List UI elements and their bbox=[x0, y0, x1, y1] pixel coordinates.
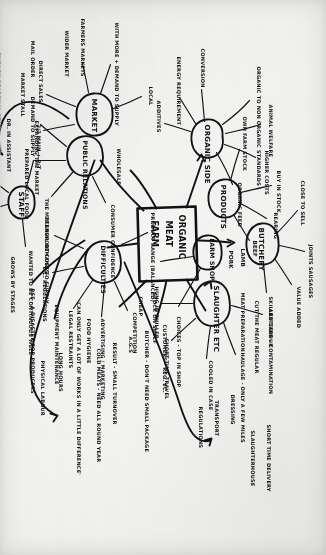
node-market-label: MARKET bbox=[89, 98, 97, 132]
leaf-label: BUY IN STOCK bbox=[275, 170, 281, 213]
leaf-label: ABATTOIR - CONTAMINATION bbox=[267, 308, 273, 394]
leaf-label: WIDER MARKET bbox=[63, 30, 69, 77]
node-products[interactable]: PRODUCTS bbox=[208, 179, 240, 229]
node-slaughter[interactable]: SLAUGHTER ETC bbox=[194, 281, 230, 352]
leaf-label: ORGANIC TO NON ORGANIC STANDARDS bbox=[255, 66, 261, 186]
leaves-farm-shop: CHOICES - TOP IN SHOP CUSTOMERS - REG. E… bbox=[95, 256, 200, 462]
leaf-label: LONG HOURS bbox=[57, 352, 63, 391]
leaf-label: ENERGY REQUIREMENT bbox=[175, 56, 181, 125]
node-butchery-label: BUTCHERY bbox=[256, 227, 264, 271]
leaf-label: CHOICES - TOP IN SHOP bbox=[175, 316, 181, 387]
leaf-label: CONVERSION bbox=[199, 48, 205, 87]
center-label-line1: ORGANIC bbox=[176, 214, 186, 259]
leaf-label: VALUE ADDED bbox=[295, 286, 301, 328]
leaf-label: FOOD HYGIENE bbox=[85, 318, 91, 363]
leaf-label: WANTED TO BE CONTINUOUS WELL bbox=[27, 250, 33, 355]
node-slaughter-label: SLAUGHTER ETC bbox=[211, 285, 219, 352]
leaf-label: DEMAND TO SUPPLY bbox=[29, 96, 35, 156]
leaf-label: OWN FARM STOCK bbox=[241, 116, 247, 172]
leaf-label: ADDITIVES bbox=[155, 100, 161, 132]
leaf-label: PORK bbox=[227, 250, 233, 269]
leaf-label: ADVERTISING / MARKETING bbox=[99, 318, 105, 399]
leaf-label: DR. IN ASSISTANT bbox=[5, 118, 11, 172]
node-products-label: PRODUCTS bbox=[218, 184, 226, 229]
node-organic-side-label: ORGANIC SIDE bbox=[202, 124, 210, 183]
leaf-label: MAIL ORDER bbox=[29, 40, 35, 77]
leaf-label: PRODUCT RANGE (BALANCED) bbox=[149, 212, 155, 302]
center-label-line2: MEAT bbox=[163, 220, 173, 246]
node-market[interactable]: MARKET bbox=[76, 93, 112, 135]
leaf-label: JOINTS SAUSAGES bbox=[307, 243, 313, 298]
leaf-label: MEAT PREPARATION bbox=[239, 292, 245, 351]
leaf-label: CUT THE MEAT REGULAR bbox=[253, 300, 259, 373]
node-staff-label: STAFF bbox=[16, 191, 25, 217]
mindmap-svg: ORGANIC MEAT FARM ORGANIC SIDE bbox=[0, 0, 326, 555]
leaf-label: HIGHER COSTS bbox=[263, 150, 269, 194]
leaf-label: THE MATERIAL DEMAND TO SUPPLY bbox=[43, 198, 49, 303]
center-node: ORGANIC MEAT FARM bbox=[137, 206, 197, 281]
leaf-label: COMPETITION bbox=[131, 312, 137, 353]
leaf-label: BUTCHER - DON'T NEED SMALL PACKAGE bbox=[143, 330, 149, 452]
leaf-label: DRESSING bbox=[229, 394, 235, 424]
node-staff[interactable]: STAFF bbox=[8, 186, 34, 218]
leaf-label: TRANSPORT bbox=[213, 400, 219, 436]
leaf-label: HAULAGE - ONLY A FEW MILES bbox=[239, 352, 245, 442]
leaf-label: CLOSE TO SELL bbox=[299, 180, 305, 226]
node-public-relations-label: PUBLIC RELATIONS bbox=[81, 140, 88, 209]
leaf-label: CONSUMER CONFIDENCE bbox=[109, 204, 115, 278]
node-farm-shop-label: FARM SHOP bbox=[208, 238, 215, 281]
leaf-label: FARMERS MARKETS bbox=[79, 18, 85, 76]
leaf-label: LEGAL RESTRAINTS bbox=[67, 310, 73, 368]
leaf-label: LOCAL bbox=[147, 86, 153, 106]
rotated-drawing-canvas: ORGANIC MEAT FARM ORGANIC SIDE bbox=[0, 0, 326, 555]
leaf-label: RESULT - SMALL TURNOVER bbox=[111, 342, 117, 424]
leaves-organic-side: ORGANIC TO NON ORGANIC STANDARDS ANIMAL … bbox=[155, 48, 273, 226]
leaf-label: COOLED IN CASE bbox=[207, 360, 213, 410]
leaf-label: SLAUGHTERHOUSE bbox=[249, 430, 255, 486]
node-organic-side[interactable]: ORGANIC SIDE bbox=[191, 119, 223, 183]
leaf-label: ANIMAL WELFARE bbox=[267, 104, 273, 157]
photo-of-handdrawn-mindmap: ORGANIC MEAT FARM ORGANIC SIDE bbox=[0, 0, 326, 555]
leaf-label: WITH MORE + DEMAND TO SUPPLY bbox=[113, 22, 119, 126]
leaf-label: SHORT TIME DELIVERY bbox=[265, 424, 271, 491]
leaf-label: ENOUGH SEASONAL STAFF bbox=[0, 52, 1, 131]
leaf-label: WHOLESALE bbox=[115, 148, 121, 185]
leaf-label: MARKET STALL bbox=[19, 72, 25, 117]
leaf-label: 2/3 MAIN + P/T bbox=[35, 124, 41, 169]
leaf-label: LAMB bbox=[239, 248, 245, 267]
leaves-staff: 2/3 MAIN + P/T WANTED TO BE CONTINUOUS W… bbox=[0, 52, 81, 475]
leaf-label: 'CAN ONLY GET A LOT OF WORKS IN A LITTLE… bbox=[75, 300, 81, 475]
leaf-label: DIRECT SALES bbox=[37, 60, 43, 102]
leaf-label: GROWS BY STAGES bbox=[9, 256, 15, 313]
node-difficulties-label: DIFFICULTIES bbox=[99, 245, 106, 293]
